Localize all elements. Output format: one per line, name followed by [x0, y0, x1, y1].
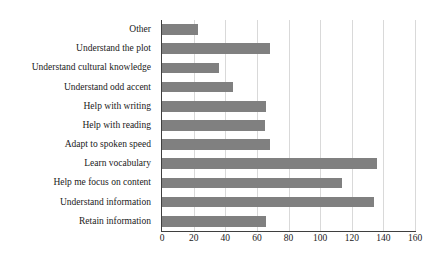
x-axis-tick-labels: 020406080100120140160 [0, 233, 445, 249]
bar-row [162, 97, 415, 116]
x-tick-label: 0 [160, 233, 165, 243]
x-tick-label: 20 [189, 233, 199, 243]
category-label: Help with writing [83, 97, 151, 116]
bar [162, 216, 266, 227]
bar-row [162, 154, 415, 173]
bar [162, 82, 233, 93]
bar-row [162, 135, 415, 154]
bar [162, 197, 374, 208]
category-label: Adapt to spoken speed [65, 135, 151, 154]
x-tick-label: 100 [313, 233, 327, 243]
x-tick-label: 120 [345, 233, 359, 243]
category-label: Retain information [79, 212, 151, 231]
bar-row [162, 212, 415, 231]
bar-row [162, 58, 415, 77]
bar [162, 63, 219, 74]
bar-row [162, 193, 415, 212]
x-tick-label: 40 [221, 233, 231, 243]
gridline [415, 20, 416, 231]
bar [162, 101, 266, 112]
bar-row [162, 173, 415, 192]
bar [162, 43, 270, 54]
x-tick-label: 60 [252, 233, 262, 243]
bar [162, 120, 265, 131]
bar [162, 139, 270, 150]
bar-row [162, 78, 415, 97]
x-tick-label: 160 [408, 233, 422, 243]
bar-row [162, 116, 415, 135]
category-label: Understand information [60, 193, 151, 212]
bar-row [162, 20, 415, 39]
bars-layer [162, 20, 415, 231]
category-label: Help with reading [82, 116, 151, 135]
category-label: Help me focus on content [53, 173, 151, 192]
x-tick-label: 140 [376, 233, 390, 243]
category-axis-labels: OtherUnderstand the plotUnderstand cultu… [0, 20, 157, 231]
bar [162, 24, 198, 35]
category-label: Other [129, 20, 151, 39]
category-label: Understand cultural knowledge [32, 58, 151, 77]
category-label: Understand odd accent [64, 78, 151, 97]
category-label: Understand the plot [76, 39, 151, 58]
x-tick-label: 80 [284, 233, 294, 243]
x-axis-line [161, 231, 416, 232]
bar [162, 178, 342, 189]
bar [162, 158, 377, 169]
bar-row [162, 39, 415, 58]
bar-chart: OtherUnderstand the plotUnderstand cultu… [0, 0, 445, 261]
category-label: Learn vocabulary [84, 154, 151, 173]
